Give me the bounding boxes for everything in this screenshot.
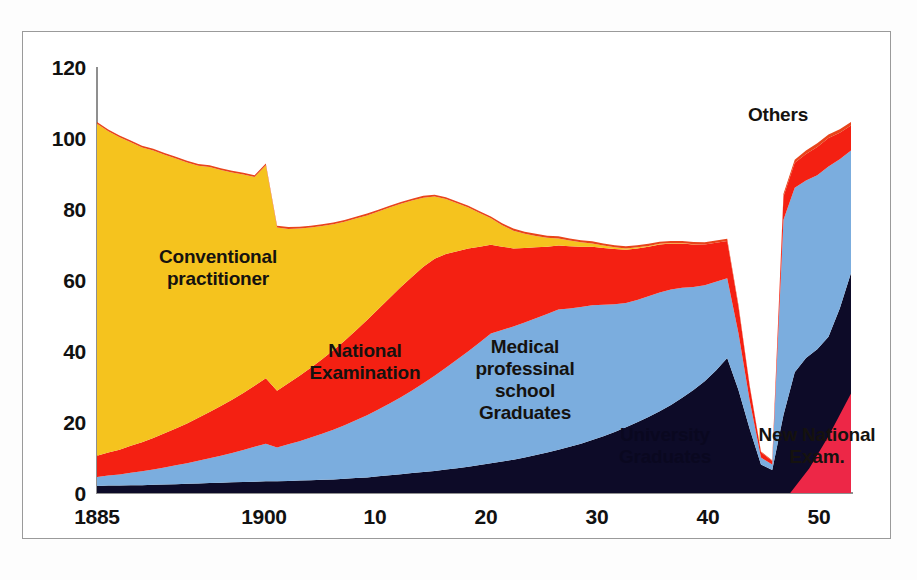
annotation-others: Others xyxy=(718,104,838,126)
y-tick-0: 0 xyxy=(24,482,86,506)
y-tick-120: 120 xyxy=(24,56,86,80)
x-tick-1930: 30 xyxy=(586,505,609,529)
y-tick-20: 20 xyxy=(24,411,86,435)
annotation-university-graduates: University Graduates xyxy=(595,424,735,468)
annotation-new-national-exam: New National Exam. xyxy=(742,424,892,468)
x-tick-1940: 40 xyxy=(697,505,720,529)
y-tick-60: 60 xyxy=(24,269,86,293)
x-tick-1950: 50 xyxy=(808,505,831,529)
x-tick-1900: 1900 xyxy=(241,505,287,529)
annotation-national-examination: National Examination xyxy=(290,340,440,384)
chart-figure: 120 100 80 60 40 20 0 1885 1900 10 20 30… xyxy=(0,0,917,580)
y-tick-40: 40 xyxy=(24,340,86,364)
annotation-conventional-practitioner: Conventional practitioner xyxy=(118,246,318,290)
x-tick-1885: 1885 xyxy=(74,505,120,529)
y-tick-100: 100 xyxy=(24,127,86,151)
y-tick-80: 80 xyxy=(24,198,86,222)
x-tick-1910: 10 xyxy=(364,505,387,529)
annotation-medical-professional-school-graduates: Medical professinal school Graduates xyxy=(455,336,595,424)
x-tick-1920: 20 xyxy=(475,505,498,529)
y-axis-labels: 120 100 80 60 40 20 0 xyxy=(22,0,86,580)
x-axis-labels: 1885 1900 10 20 30 40 50 xyxy=(0,505,917,541)
